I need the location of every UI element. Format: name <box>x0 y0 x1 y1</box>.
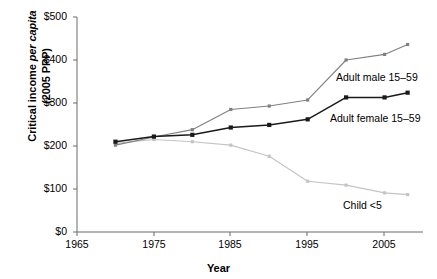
series-marker <box>267 123 271 127</box>
series-marker <box>191 140 194 143</box>
child-label: Child <5 <box>343 199 382 211</box>
series-marker <box>113 140 117 144</box>
series-marker <box>406 193 409 196</box>
series-line <box>115 140 407 195</box>
adult-male-label: Adult male 15–59 <box>336 71 418 83</box>
series-marker <box>229 108 232 111</box>
series-adult-male-15-59 <box>114 43 409 147</box>
chart-container: Critical income per capita (2005 PPP) Ye… <box>0 0 437 279</box>
series-marker <box>406 91 410 95</box>
x-axis-title: Year <box>0 262 437 274</box>
x-axis-tick-label: 1975 <box>131 238 177 250</box>
series-marker <box>229 144 232 147</box>
series-marker <box>306 117 310 121</box>
series-marker <box>345 58 348 61</box>
series-marker <box>191 128 194 131</box>
series-marker <box>190 133 194 137</box>
x-axis-tick-label: 2005 <box>361 238 407 250</box>
series-marker <box>406 43 409 46</box>
series-child-5 <box>114 138 409 196</box>
series-marker <box>268 104 271 107</box>
y-axis-tick-label: $500 <box>25 10 67 22</box>
x-axis-tick-label: 1985 <box>207 238 253 250</box>
series-marker <box>382 95 386 99</box>
adult-female-label: Adult female 15–59 <box>330 112 420 124</box>
series-marker <box>383 191 386 194</box>
series-marker <box>229 125 233 129</box>
series-line <box>115 45 407 146</box>
y-axis-tick-label: $100 <box>25 182 67 194</box>
y-axis-tick-label: $200 <box>25 139 67 151</box>
x-axis-tick-label: 1965 <box>54 238 100 250</box>
series-marker <box>306 180 309 183</box>
series-marker <box>344 95 348 99</box>
x-axis-tick-label: 1995 <box>284 238 330 250</box>
y-axis-tick-label: $300 <box>25 96 67 108</box>
series-marker <box>306 98 309 101</box>
series-marker <box>152 134 156 138</box>
series-marker <box>345 184 348 187</box>
y-axis-tick-label: $0 <box>25 225 67 237</box>
series-marker <box>114 144 117 147</box>
series-marker <box>383 53 386 56</box>
y-axis-tick-label: $400 <box>25 53 67 65</box>
series-marker <box>268 155 271 158</box>
y-axis-title: Critical income per capita (2005 PPP) <box>25 0 53 161</box>
